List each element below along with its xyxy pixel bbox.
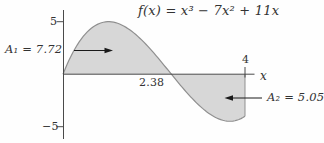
x-axis-label: x (260, 70, 267, 82)
function-area-figure: f(x) = x³ − 7x² + 11x A₁ = 7.72 A₂ = 5.0… (0, 0, 324, 143)
ytick-neg5-label: −5 (42, 121, 59, 132)
area-a1-fill (63, 22, 171, 74)
root-label: 2.38 (139, 77, 164, 88)
ytick-5-label: 5 (50, 16, 57, 27)
figure-title: f(x) = x³ − 7x² + 11x (138, 4, 279, 17)
area1-label: A₁ = 7.72 (5, 44, 62, 56)
xtick-4-label: 4 (242, 54, 249, 65)
area2-label: A₂ = 5.05 (267, 92, 324, 104)
